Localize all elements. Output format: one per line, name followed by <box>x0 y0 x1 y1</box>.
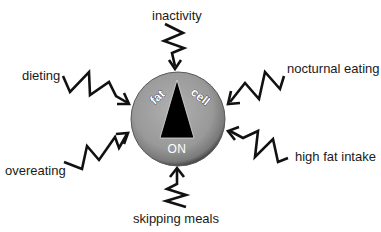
factor-label-inactivity: inactivity <box>152 9 202 22</box>
factor-label-overeating: overeating <box>5 164 66 177</box>
zigzag-arrow-skipping-meals-icon <box>166 168 186 207</box>
zigzag-arrow-inactivity-icon <box>164 24 184 69</box>
on-state-label: ON <box>168 142 187 156</box>
zigzag-arrow-dieting-icon <box>63 72 129 104</box>
zigzag-arrow-nocturnal-eating-icon <box>228 72 284 104</box>
factor-label-high-fat-intake: high fat intake <box>295 150 376 163</box>
fat-cell-diagram: fat cell ON <box>0 0 381 232</box>
factor-label-dieting: dieting <box>22 69 60 82</box>
fat-cell-disc: fat cell ON <box>131 72 225 166</box>
zigzag-arrow-high-fat-intake-icon <box>228 127 288 162</box>
diagram-graphics: fat cell ON <box>0 0 381 232</box>
factor-label-skipping-meals: skipping meals <box>133 212 219 225</box>
factor-label-nocturnal-eating: nocturnal eating <box>287 62 380 75</box>
zigzag-arrow-overeating-icon <box>64 133 128 169</box>
